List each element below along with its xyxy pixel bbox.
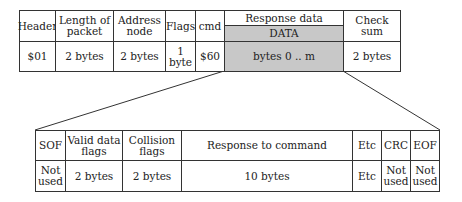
length-col-header: Length of packet — [55, 10, 114, 42]
checksum-col-value: 2 bytes — [343, 41, 401, 72]
checksum-col-header: Check sum — [343, 10, 401, 42]
header-col-header: Header — [19, 10, 56, 42]
cmd-col-header: cmd — [195, 10, 225, 42]
etc-col-header: Etc — [352, 130, 382, 161]
address-col-header: Address node — [113, 10, 166, 42]
length-col-value: 2 bytes — [55, 41, 114, 72]
flags-col-header: Flags — [165, 10, 196, 42]
data-subheader: DATA — [224, 25, 344, 42]
valid-flags-col-value: 2 bytes — [65, 160, 123, 192]
sof-col-header: SOF — [35, 130, 66, 161]
crc-col-header: CRC — [381, 130, 411, 161]
flags-col-value: 1 byte — [165, 41, 196, 72]
collision-flags-col-header: Collision flags — [122, 130, 182, 161]
data-col-value: bytes 0 .. m — [224, 41, 344, 72]
eof-col-header: EOF — [410, 130, 440, 161]
sof-col-value: Not used — [35, 160, 66, 192]
response-col-header: Response to command — [181, 130, 353, 161]
response-data-header: Response data — [224, 10, 344, 26]
address-col-value: 2 bytes — [113, 41, 166, 72]
etc-col-value: Etc — [352, 160, 382, 192]
eof-col-value: Not used — [410, 160, 440, 192]
collision-flags-col-value: 2 bytes — [122, 160, 182, 192]
header-col-value: $01 — [19, 41, 56, 72]
cmd-col-value: $60 — [195, 41, 225, 72]
response-col-value: 10 bytes — [181, 160, 353, 192]
crc-col-value: Not used — [381, 160, 411, 192]
valid-flags-col-header: Valid data flags — [65, 130, 123, 161]
